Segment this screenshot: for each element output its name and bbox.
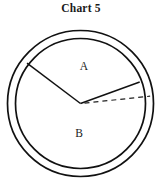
chart-figure: Chart 5 A B: [0, 0, 162, 187]
sector-label-a: A: [80, 60, 89, 72]
radius-left: [27, 63, 81, 103]
dashed-reference-line: [84, 96, 150, 103]
chart-canvas: A B: [0, 0, 162, 187]
radius-right: [81, 82, 140, 104]
sector-label-b: B: [75, 127, 83, 139]
